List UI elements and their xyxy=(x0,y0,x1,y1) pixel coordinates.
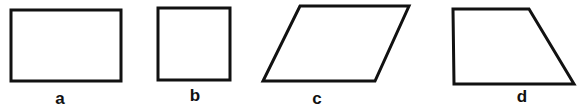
shape-label-b: b xyxy=(190,86,200,105)
square-shape-b xyxy=(158,8,230,80)
shape-b-group: b xyxy=(158,8,230,105)
shapes-diagram: a b c d xyxy=(0,0,583,108)
shape-label-d: d xyxy=(517,87,527,106)
trapezoid-shape-d xyxy=(453,9,574,84)
shape-label-a: a xyxy=(55,89,65,108)
shape-c-group: c xyxy=(263,6,409,108)
shape-d-group: d xyxy=(453,9,574,106)
shape-label-c: c xyxy=(312,89,321,108)
rectangle-shape-a xyxy=(11,10,121,81)
shape-a-group: a xyxy=(11,10,121,108)
parallelogram-shape-c xyxy=(263,6,409,81)
